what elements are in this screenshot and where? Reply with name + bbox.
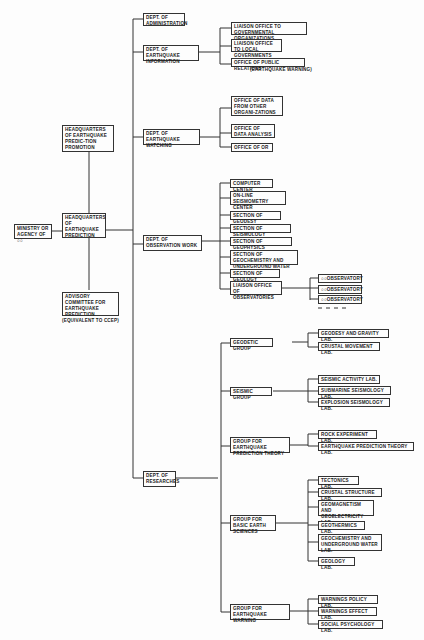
lab-rock-experiment: Rock Experiment Lab. <box>318 430 377 439</box>
promotion-hq-box: Headquarters of Earthquake Predic-tion P… <box>62 125 114 152</box>
ministry-box: Ministry or Agency of ○○ <box>14 224 52 239</box>
dept-researches: Dept. of Researches <box>143 471 176 487</box>
office-public-relations: Office of Public Relations <box>231 58 305 67</box>
group-seismic: Seismic Group <box>230 387 272 396</box>
dept-earthquake-information: Dept. of Earthquake Information <box>143 45 199 61</box>
lab-prediction-theory: Earthquake Prediction Theory Lab. <box>318 442 414 451</box>
dept-observation-work: Dept. of Observation Work <box>143 235 202 251</box>
section-geochemistry: Section of Geochemistry and Underground … <box>230 250 298 265</box>
group-geodetic: Geodetic Group <box>230 338 273 347</box>
group-prediction-theory: Group for Earthquake Prediction Theory <box>230 437 290 453</box>
org-chart: Ministry or Agency of ○○ Headquarters of… <box>0 0 424 640</box>
lab-crustal-movement: Crustal Movement Lab. <box>318 342 380 351</box>
section-seismology: Section of Seismology <box>230 224 291 233</box>
headquarters-box: Headquarters of Earthquake Prediction <box>62 213 106 238</box>
lab-tectonics: Tectonics Lab. <box>318 476 359 485</box>
group-earthquake-warning: Group for Earthquake Warning <box>230 604 290 620</box>
dept-administration: Dept. of Administration <box>143 13 185 26</box>
lab-crustal-structure: Crustal Structure Lab. <box>318 488 382 497</box>
online-seismometry-center: On-line Seismometry Center <box>230 191 286 205</box>
observatory-3: ○○Observatory <box>318 295 362 304</box>
lab-explosion-seismology: Explosion Seismology Lab. <box>318 398 390 407</box>
lab-geology: Geology Lab. <box>318 557 355 566</box>
lab-submarine-seismology: Submarine Seismology Lab. <box>318 386 391 395</box>
section-geology: Section of Geology <box>230 269 280 278</box>
advisory-committee-box: Advisory Committee for Earthquake Predic… <box>62 292 119 316</box>
office-data-analysis: Office of Data Analysis <box>231 124 275 138</box>
dept-earthquake-watching: Dept. of Earthquake Watching <box>143 129 200 145</box>
observatory-2: ○○Observatory <box>318 285 362 294</box>
group-basic-earth-sciences: Group for Basic Earth Sciences <box>230 515 276 531</box>
lab-geothermics: Geothermics Lab. <box>318 521 365 530</box>
lab-geodesy-gravity: Geodesy and Gravity Lab. <box>318 329 389 338</box>
liaison-office-observatories: Liaison Office of Observatories <box>230 281 282 295</box>
lab-warnings-effect: Warnings Effect Lab. <box>318 607 377 616</box>
office-governmental-orgs: Liaison Office to Governmental Organizat… <box>231 22 307 35</box>
computer-center: Computer Center <box>230 179 273 188</box>
lab-warnings-policy: Warnings Policy Lab. <box>318 595 378 604</box>
office-local-governments: Liaison Office to Local Governments <box>231 39 282 52</box>
lab-seismic-activity: Seismic Activity Lab. <box>318 375 380 384</box>
section-geodesy: Section of Geodesy <box>230 211 281 220</box>
advisory-note: (Equivalent to CCEP) <box>62 318 119 324</box>
lab-geomagnetism: Geomagnetism and Geoelectricity Lab. <box>318 500 374 516</box>
office-data-other-orgs: Office of Data from Other Organi-zations <box>231 96 283 116</box>
lab-social-psychology: Social Psychology Lab. <box>318 620 383 629</box>
lab-geochemistry: Geochemistry and Underground Water Lab. <box>318 534 382 551</box>
public-relations-note: (Earthquake Warning) <box>250 67 312 73</box>
office-or: Office of OR <box>231 143 273 152</box>
observatory-1: ○○Observatory <box>318 274 362 283</box>
section-geophysics: Section of Geophysics <box>230 237 292 246</box>
